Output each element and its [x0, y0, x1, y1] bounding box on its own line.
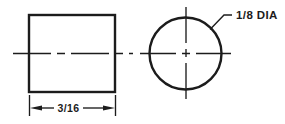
width-dimension-label: 3/16 [57, 102, 79, 114]
dimension-arrow-right-icon [103, 105, 115, 110]
diameter-leader-line [210, 15, 232, 30]
technical-drawing: 3/16 1/8 DIA [0, 0, 285, 124]
dimension-arrow-left-icon [30, 105, 42, 110]
drawing-canvas: 3/16 1/8 DIA [0, 0, 285, 124]
diameter-callout-label: 1/8 DIA [236, 9, 278, 21]
